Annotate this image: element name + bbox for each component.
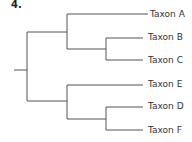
- taxon-label-f: Taxon F: [147, 125, 182, 135]
- taxon-label-c: Taxon C: [147, 55, 183, 65]
- taxon-label-d: Taxon D: [147, 101, 184, 111]
- phylogenetic-tree: Taxon A Taxon B Taxon C Taxon E Taxon D …: [0, 0, 192, 142]
- taxon-label-b: Taxon B: [147, 32, 183, 42]
- taxon-label-e: Taxon E: [147, 79, 183, 89]
- taxon-label-a: Taxon A: [149, 9, 186, 19]
